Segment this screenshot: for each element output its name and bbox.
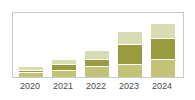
bar-2024-segment-middle <box>151 39 175 60</box>
x-tick-label-2021: 2021 <box>45 80 81 92</box>
plot-area <box>13 13 183 77</box>
x-tick-label-2024: 2024 <box>144 80 180 92</box>
plot-frame <box>12 12 184 78</box>
bar-2024[interactable] <box>151 24 175 77</box>
bar-2023-segment-bottom <box>118 65 142 77</box>
stacked-bar-chart: 2020 2021 2022 2023 2024 <box>0 0 195 100</box>
bar-2024-segment-bottom <box>151 60 175 77</box>
bar-2021[interactable] <box>52 60 76 77</box>
x-axis: 2020 2021 2022 2023 2024 <box>12 80 184 96</box>
bar-2023[interactable] <box>118 32 142 77</box>
bar-2020-segment-bottom <box>19 73 43 77</box>
bar-2022-segment-middle <box>85 60 109 67</box>
bar-2022[interactable] <box>85 51 109 77</box>
x-tick-label-2023: 2023 <box>111 80 147 92</box>
bar-2023-segment-top <box>118 32 142 45</box>
bar-2022-segment-bottom <box>85 67 109 77</box>
bar-2024-segment-top <box>151 24 175 39</box>
bar-2023-segment-middle <box>118 45 142 65</box>
bar-2022-segment-top <box>85 51 109 60</box>
bar-2021-segment-bottom <box>52 71 76 77</box>
x-tick-label-2022: 2022 <box>78 80 114 92</box>
x-tick-label-2020: 2020 <box>12 80 48 92</box>
bar-2020[interactable] <box>19 67 43 77</box>
